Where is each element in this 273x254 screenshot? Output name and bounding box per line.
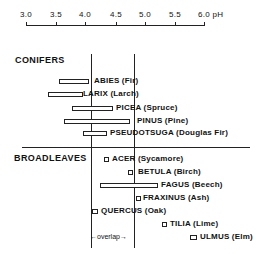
group-title-conifers: CONIFERS bbox=[15, 55, 65, 65]
group-title-broadleaves: BROADLEAVES bbox=[14, 153, 87, 163]
tick bbox=[26, 22, 27, 26]
label-quercus: QUERCUS (Oak) bbox=[101, 206, 166, 215]
tick bbox=[175, 22, 176, 26]
tick bbox=[56, 22, 57, 26]
label-abies: ABIES (Fir) bbox=[94, 76, 138, 85]
tick-label-3.5: 3.5 bbox=[50, 10, 62, 19]
tick-label-4.0: 4.0 bbox=[79, 10, 91, 19]
tick-label-5.5: 5.5 bbox=[169, 10, 181, 19]
tick bbox=[85, 22, 86, 26]
overlap-line-left bbox=[91, 54, 92, 248]
bar-pinus bbox=[64, 119, 130, 124]
bar-fagus bbox=[100, 183, 158, 188]
bar-tilia bbox=[162, 222, 167, 227]
tick bbox=[145, 22, 146, 26]
overlap-annotation: ←overlap→ bbox=[90, 233, 127, 240]
label-fraxinus: FRAXINUS (Ash) bbox=[143, 193, 209, 202]
label-pinus: PINUS (Pine) bbox=[134, 116, 188, 125]
bar-abies bbox=[59, 79, 89, 84]
label-acer: ACER (Sycamore) bbox=[112, 154, 183, 163]
bar-ulmus bbox=[190, 235, 197, 240]
bar-larix bbox=[48, 92, 83, 97]
label-betula: BETULA (Birch) bbox=[138, 167, 201, 176]
tick-label-5.0: 5.0 bbox=[139, 10, 151, 19]
label-picea: PICEA (Spruce) bbox=[116, 103, 178, 112]
label-pseudotsuga: PSEUDOTSUGA (Douglas Fir) bbox=[110, 128, 228, 137]
bar-quercus bbox=[92, 209, 98, 214]
bar-pseudotsuga bbox=[83, 131, 107, 136]
tick-label-6.0: 6.0 pH bbox=[198, 10, 223, 19]
tick-label-3.0: 3.0 bbox=[20, 10, 32, 19]
bar-picea bbox=[72, 106, 113, 111]
label-tilia: TILIA (Lime) bbox=[170, 219, 218, 228]
bar-betula bbox=[128, 170, 133, 175]
group-separator bbox=[22, 147, 250, 148]
tick-label-4.5: 4.5 bbox=[110, 10, 122, 19]
bar-fraxinus bbox=[136, 196, 141, 201]
tick bbox=[204, 22, 205, 26]
bar-acer bbox=[104, 157, 109, 162]
label-fagus: FAGUS (Beech) bbox=[161, 180, 223, 189]
label-ulmus: ULMUS (Elm) bbox=[200, 232, 253, 241]
label-larix: LARIX (Larch) bbox=[83, 89, 139, 98]
tick bbox=[116, 22, 117, 26]
